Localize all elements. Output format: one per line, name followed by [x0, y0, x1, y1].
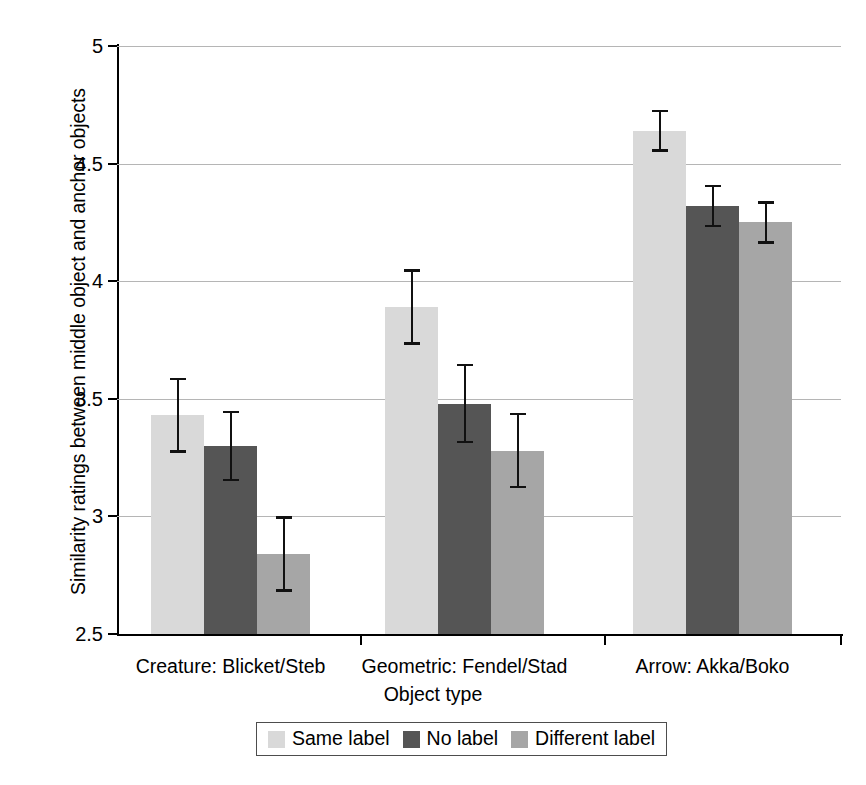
y-tick-label: 4.5	[75, 152, 103, 175]
error-bar	[659, 110, 661, 152]
error-bar-cap	[404, 269, 420, 272]
plot-area: 2.533.544.55	[117, 46, 841, 634]
y-tick-label: 3	[92, 505, 103, 528]
legend-swatch-icon	[511, 731, 528, 748]
legend-label: Different label	[535, 729, 655, 749]
error-bar-cap	[510, 413, 526, 416]
error-bar-cap	[404, 342, 420, 345]
error-bar	[712, 185, 714, 227]
legend-item[interactable]: Different label	[511, 729, 655, 749]
y-tick-mark	[108, 515, 117, 517]
x-group-label: Creature: Blicket/Steb	[136, 655, 326, 678]
gridline	[117, 164, 841, 165]
x-tick-mark	[840, 634, 842, 645]
error-bar-cap	[170, 378, 186, 381]
legend-item[interactable]: No label	[403, 729, 499, 749]
legend-swatch-icon	[268, 731, 285, 748]
chart-figure: Similarity ratings between middle object…	[0, 0, 866, 785]
error-bar	[517, 413, 519, 488]
bar	[739, 222, 792, 634]
bar	[686, 206, 739, 634]
error-bar-cap	[652, 149, 668, 152]
x-group-label: Geometric: Fendel/Stad	[362, 655, 568, 678]
y-tick-mark	[108, 633, 117, 635]
error-bar-cap	[705, 225, 721, 228]
error-bar-cap	[652, 110, 668, 113]
y-tick-label: 2.5	[75, 623, 103, 646]
y-tick-mark	[108, 280, 117, 282]
error-bar	[283, 516, 285, 591]
y-axis-line	[117, 44, 119, 636]
error-bar-cap	[170, 450, 186, 453]
legend-swatch-icon	[403, 731, 420, 748]
error-bar-cap	[758, 201, 774, 204]
error-bar-cap	[223, 479, 239, 482]
error-bar-cap	[705, 185, 721, 188]
error-bar	[177, 378, 179, 453]
error-bar-cap	[276, 516, 292, 519]
error-bar-cap	[223, 411, 239, 414]
y-tick-mark	[108, 163, 117, 165]
error-bar	[464, 364, 466, 444]
x-tick-mark	[360, 634, 362, 645]
x-tick-mark	[604, 634, 606, 645]
error-bar-cap	[758, 241, 774, 244]
y-axis-title: Similarity ratings between middle object…	[67, 22, 90, 662]
x-axis-line	[117, 634, 843, 636]
error-bar-cap	[510, 486, 526, 489]
error-bar	[411, 269, 413, 344]
y-tick-label: 4	[92, 270, 103, 293]
legend-item[interactable]: Same label	[268, 729, 390, 749]
error-bar-cap	[276, 589, 292, 592]
bar	[633, 131, 686, 634]
y-tick-label: 5	[92, 35, 103, 58]
y-tick-mark	[108, 398, 117, 400]
y-tick-mark	[108, 45, 117, 47]
y-tick-label: 3.5	[75, 387, 103, 410]
chart-legend: Same labelNo labelDifferent label	[256, 722, 667, 756]
x-axis-title: Object type	[0, 683, 866, 706]
legend-label: No label	[427, 729, 499, 749]
error-bar	[765, 201, 767, 243]
error-bar-cap	[457, 441, 473, 444]
error-bar-cap	[457, 364, 473, 367]
gridline	[117, 46, 841, 47]
legend-label: Same label	[292, 729, 390, 749]
x-group-label: Arrow: Akka/Boko	[636, 655, 790, 678]
bar	[385, 307, 438, 634]
error-bar	[230, 411, 232, 482]
